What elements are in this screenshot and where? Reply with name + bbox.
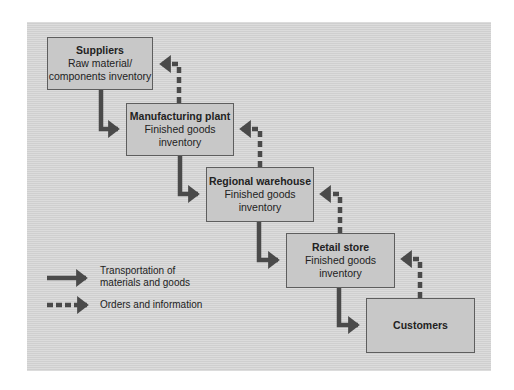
legend-line: Orders and information <box>100 299 202 311</box>
node-manufacturing-plant: Manufacturing plant Finished goods inven… <box>126 103 234 156</box>
node-title: Customers <box>393 319 448 332</box>
node-retail-store: Retail store Finished goods inventory <box>286 233 395 288</box>
node-subtitle: inventory <box>319 267 362 280</box>
node-subtitle: inventory <box>159 136 202 149</box>
node-title: Retail store <box>312 241 369 254</box>
node-suppliers: Suppliers Raw material/ components inven… <box>47 37 153 90</box>
node-subtitle: components inventory <box>49 70 152 83</box>
legend-line: Transportation of <box>100 265 190 277</box>
node-subtitle: Raw material/ <box>68 57 132 70</box>
legend-line: materials and goods <box>100 277 190 289</box>
node-subtitle: Finished goods <box>224 188 295 201</box>
legend-transportation-label: Transportation of materials and goods <box>100 265 190 289</box>
node-subtitle: inventory <box>239 201 282 214</box>
node-title: Manufacturing plant <box>130 110 230 123</box>
node-title: Suppliers <box>76 44 124 57</box>
node-customers: Customers <box>366 298 475 353</box>
node-subtitle: Finished goods <box>144 123 215 136</box>
legend-orders-label: Orders and information <box>100 299 202 311</box>
node-title: Regional warehouse <box>209 175 311 188</box>
node-regional-warehouse: Regional warehouse Finished goods invent… <box>206 167 314 222</box>
node-subtitle: Finished goods <box>305 254 376 267</box>
